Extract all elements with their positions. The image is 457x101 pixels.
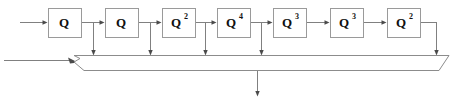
stage-exponent-4: 4 — [239, 12, 243, 21]
stage-label-6: Q — [339, 15, 349, 30]
stage-box-5[interactable]: Q 3 — [274, 9, 307, 38]
stage-label-7: Q — [396, 15, 406, 30]
diagram-svg: Q Q Q 2 Q 4 Q 3 Q 3 Q — [0, 0, 457, 101]
tap-line-1 — [91, 23, 95, 56]
tap-line-3 — [203, 23, 207, 56]
stage-box-3[interactable]: Q 2 — [163, 9, 196, 38]
block-diagram-canvas: Q Q Q 2 Q 4 Q 3 Q 3 Q — [0, 0, 457, 101]
stage-box-4[interactable]: Q 4 — [218, 9, 251, 38]
summing-bus — [74, 56, 449, 71]
stage-label-5: Q — [282, 15, 292, 30]
stage-box-2[interactable]: Q — [106, 9, 139, 38]
chain-input-wire — [20, 20, 48, 24]
stage-exponent-5: 3 — [295, 12, 299, 21]
tap-line-4 — [259, 23, 263, 56]
stage-box-1[interactable]: Q — [49, 9, 82, 38]
stage-box-6[interactable]: Q 3 — [331, 9, 364, 38]
tap-line-2 — [148, 23, 152, 56]
bus-side-input-wire — [4, 58, 78, 64]
stage-label-3: Q — [171, 15, 181, 30]
stage-exponent-7: 2 — [409, 12, 413, 21]
bus-output-wire — [255, 71, 259, 97]
stage-label-2: Q — [116, 15, 126, 30]
stage-exponent-3: 2 — [184, 12, 188, 21]
stage-label-1: Q — [59, 15, 69, 30]
stage-label-4: Q — [226, 15, 236, 30]
last-stage-feedout-wire — [420, 23, 439, 56]
stage-box-7[interactable]: Q 2 — [388, 9, 421, 38]
stage-exponent-6: 3 — [352, 12, 356, 21]
